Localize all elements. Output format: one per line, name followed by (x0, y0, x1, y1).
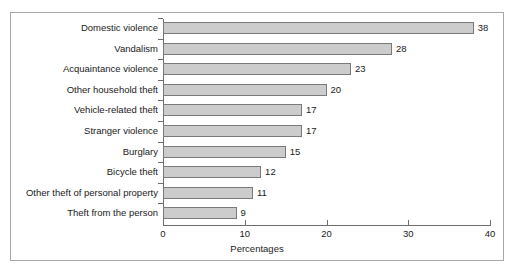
bar-value-label: 11 (257, 187, 267, 199)
category-label: Other theft of personal property (18, 187, 158, 199)
x-axis-tick (163, 220, 164, 225)
y-axis-tick (158, 203, 163, 204)
x-axis-tick (327, 220, 328, 225)
y-axis-tick (158, 18, 163, 19)
bar-value-label: 20 (331, 84, 342, 96)
bar-value-label: 17 (306, 104, 317, 116)
bar-value-label: 15 (290, 146, 301, 158)
category-label: Other household theft (18, 84, 158, 96)
x-axis-tick-label: 40 (475, 228, 505, 240)
bar (163, 22, 474, 34)
y-axis-tick (158, 142, 163, 143)
y-axis-tick (158, 183, 163, 184)
bar (163, 166, 261, 178)
x-axis-line (163, 225, 491, 226)
category-label: Vandalism (18, 43, 158, 55)
bar-value-label: 9 (241, 207, 246, 219)
category-label: Stranger violence (18, 125, 158, 137)
y-axis-tick (158, 121, 163, 122)
category-label: Domestic violence (18, 22, 158, 34)
category-label: Acquaintance violence (18, 63, 158, 75)
bar (163, 84, 327, 96)
bar (163, 63, 351, 75)
x-axis-tick (408, 220, 409, 225)
y-axis-tick (158, 59, 163, 60)
bar-value-label: 12 (265, 166, 276, 178)
bar (163, 146, 286, 158)
bar (163, 104, 302, 116)
x-axis-tick-label: 10 (230, 228, 260, 240)
category-label: Burglary (18, 146, 158, 158)
category-label: Theft from the person (18, 207, 158, 219)
category-label: Bicycle theft (18, 166, 158, 178)
bar (163, 187, 253, 199)
chart-figure-frame: 3828232017171512119 Domestic violenceVan… (10, 12, 504, 261)
bar (163, 125, 302, 137)
x-axis-tick-label: 20 (312, 228, 342, 240)
bar-chart-plot-area: 3828232017171512119 Domestic violenceVan… (11, 13, 503, 260)
x-axis-tick-label: 30 (393, 228, 423, 240)
x-axis-tick-label: 0 (148, 228, 178, 240)
y-axis-tick (158, 80, 163, 81)
y-axis-tick (158, 162, 163, 163)
x-axis-tick (490, 220, 491, 225)
x-axis-tick (245, 220, 246, 225)
bar-value-label: 38 (478, 22, 489, 34)
bar (163, 207, 237, 219)
y-axis-tick (158, 39, 163, 40)
bar-value-label: 23 (355, 63, 366, 75)
bar (163, 43, 392, 55)
category-label: Vehicle-related theft (18, 104, 158, 116)
bar-value-label: 17 (306, 125, 317, 137)
y-axis-tick (158, 100, 163, 101)
bar-value-label: 28 (396, 43, 407, 55)
x-axis-title: Percentages (11, 243, 503, 255)
